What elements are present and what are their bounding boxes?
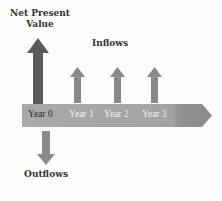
outflows-label: Outflows xyxy=(22,169,70,180)
inflow-arrow-year2-icon xyxy=(110,67,125,103)
timeline-year-2: Year 2 xyxy=(104,109,129,119)
inflow-arrow-year1-icon xyxy=(70,67,85,103)
npv-up-arrow-icon xyxy=(27,38,49,104)
timeline-year-1: Year 1 xyxy=(69,109,94,119)
outflow-down-arrow-icon xyxy=(37,131,55,165)
inflow-arrow-year3-icon xyxy=(147,67,162,103)
timeline-year-0: Year 0 xyxy=(28,109,53,119)
timeline-year-3: Year 3 xyxy=(142,109,167,119)
